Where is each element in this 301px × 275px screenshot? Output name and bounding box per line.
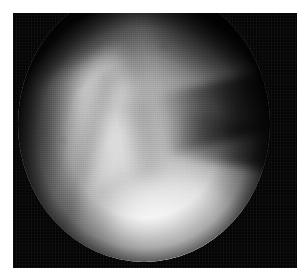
superolateral-dark — [149, 13, 270, 85]
lucency-band-1 — [51, 68, 126, 236]
lucency-band-2 — [107, 28, 171, 187]
oblique-bright-band — [24, 17, 223, 198]
inferior-blush — [109, 146, 270, 262]
image-grain-texture — [18, 13, 270, 262]
lateral-wedge-secondary — [172, 112, 270, 175]
superomedial-dark — [18, 13, 124, 80]
radiograph-frame — [13, 13, 297, 268]
bright-knob — [94, 63, 160, 118]
inferior-blush-secondary — [73, 185, 219, 262]
circular-field-of-view — [18, 13, 270, 262]
field-of-view-vignette — [18, 13, 270, 262]
medial-rim-dark — [18, 14, 78, 235]
tissue-plateau — [18, 58, 235, 229]
lateral-wedge — [154, 66, 270, 155]
page-canvas — [0, 0, 301, 275]
image-mottle-texture — [18, 13, 270, 262]
